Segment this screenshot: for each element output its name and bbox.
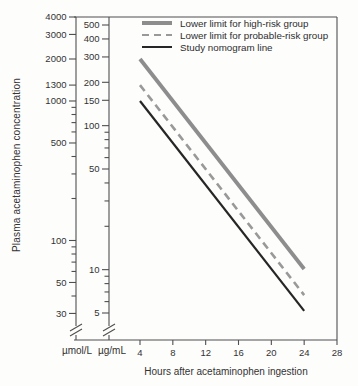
series-line-2 [140, 101, 304, 311]
legend-label: Study nomogram line [180, 42, 273, 53]
x-tick-label: 28 [332, 347, 343, 358]
y-axis-title: Plasma acetaminophen concentration [11, 78, 22, 252]
y-tick-label: 2000 [45, 53, 66, 64]
legend-item-high-risk: Lower limit for high-risk group [142, 17, 328, 29]
y-axis-unit-ugml: µg/mL [98, 345, 126, 356]
legend-line-swatch-study-line [142, 46, 172, 48]
y-axis-umol: 400030002000130010005001005030 [45, 11, 82, 340]
y-tick-label: 200 [84, 77, 100, 88]
legend-line-swatch-probable-risk [142, 34, 172, 37]
plot-frame [74, 17, 337, 340]
legend-item-study-line: Study nomogram line [142, 41, 328, 53]
y-tick-label: 10 [89, 264, 100, 275]
y-tick-label: 100 [51, 235, 67, 246]
legend-item-probable-risk: Lower limit for probable-risk group [142, 29, 328, 41]
series-lines [140, 59, 304, 311]
x-axis-title: Hours after acetaminophen ingestion [144, 366, 307, 377]
y-tick-label: 150 [84, 95, 100, 106]
y-tick-label: 5 [94, 307, 99, 318]
x-tick-label: 24 [299, 347, 310, 358]
y-tick-label: 50 [89, 163, 100, 174]
legend-line-swatch-high-risk [142, 21, 172, 25]
y-tick-label: 100 [84, 120, 100, 131]
y-axis-unit-umol: µmol/L [62, 345, 92, 356]
y-tick-label: 400 [84, 33, 100, 44]
y-tick-label: 3000 [45, 29, 66, 40]
legend: Lower limit for high-risk group Lower li… [142, 17, 328, 53]
y-tick-label: 1000 [45, 95, 66, 106]
x-tick-label: 4 [137, 347, 142, 358]
y-tick-label: 1300 [45, 79, 66, 90]
legend-label: Lower limit for probable-risk group [180, 30, 328, 41]
legend-label: Lower limit for high-risk group [180, 18, 309, 29]
x-axis: 481216202428 [137, 340, 342, 358]
y-axis-ugml: 50040030020015010050105 [84, 17, 115, 340]
y-tick-label: 50 [56, 277, 67, 288]
y-tick-label: 500 [84, 19, 100, 30]
x-tick-label: 12 [200, 347, 211, 358]
y-tick-label: 30 [56, 308, 67, 319]
series-line-0 [140, 59, 304, 269]
x-tick-label: 16 [233, 347, 244, 358]
y-tick-label: 300 [84, 51, 100, 62]
series-line-1 [140, 85, 304, 295]
x-tick-label: 20 [266, 347, 277, 358]
y-tick-label: 500 [51, 137, 67, 148]
chart-canvas: 4000300020001300100050010050305004003002… [0, 0, 358, 386]
y-tick-label: 4000 [45, 11, 66, 22]
x-tick-label: 8 [170, 347, 175, 358]
nomogram-figure: 4000300020001300100050010050305004003002… [0, 0, 358, 386]
